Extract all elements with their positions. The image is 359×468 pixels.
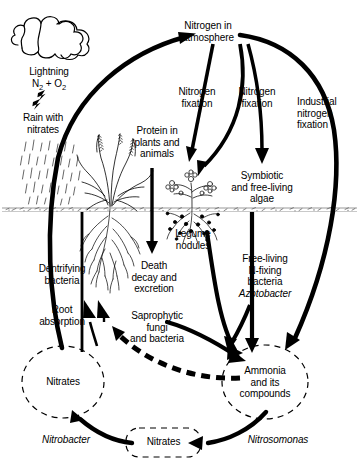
flow-denitrification <box>50 37 185 348</box>
flow-nfix-protein <box>192 44 213 150</box>
flow-root-absorption-second-head <box>97 300 110 318</box>
flow-legume-ammonia <box>207 232 235 350</box>
flow-azotobacter-ammonia <box>232 305 250 342</box>
flow-nfix-algae <box>248 44 262 150</box>
flow-nitrate-root-absorption <box>90 322 97 346</box>
soil-line-illustration <box>2 208 357 212</box>
flow-nitrobacter <box>80 419 132 443</box>
node-nitrates-left <box>22 346 104 418</box>
flow-denitrification-head <box>178 32 196 44</box>
diagram-canvas <box>0 0 359 468</box>
flow-nitrate-root-absorption-head <box>83 300 96 318</box>
cloud-illustration <box>11 17 88 60</box>
legume-plant-illustration <box>166 170 220 244</box>
flow-nitrosomonas <box>208 412 266 443</box>
node-ammonia <box>222 345 308 419</box>
lightning-bolt-icon <box>32 90 45 110</box>
flow-ammonia-root-dashed <box>120 336 240 378</box>
nitrogen-cycle-diagram: Nitrogen in atmosphere Lightning N2 + O2… <box>0 0 359 468</box>
flow-nfix-algae-head <box>255 148 269 164</box>
flow-protein-death-head <box>146 241 158 254</box>
flow-nfix-protein-head <box>186 146 197 162</box>
grass-plant-illustration <box>77 134 153 293</box>
flow-nfix-legume-head <box>197 160 208 176</box>
